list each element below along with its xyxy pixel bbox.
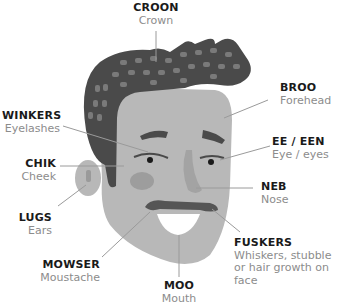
label-neb: NEB Nose xyxy=(261,181,288,206)
gloss-croon: Crown xyxy=(126,15,186,28)
gloss-mowser: Moustache xyxy=(20,272,100,285)
term-croon: CROON xyxy=(126,2,186,15)
face-shape xyxy=(100,88,232,264)
ear-inner xyxy=(86,170,91,182)
label-broo: BROO Forehead xyxy=(280,82,331,107)
label-fuskers: FUSKERS Whiskers, stubble or hair growth… xyxy=(234,237,342,288)
gloss-moo: Mouth xyxy=(154,293,204,306)
label-moo: MOO Mouth xyxy=(154,280,204,305)
label-croon: CROON Crown xyxy=(126,2,186,27)
right-eye xyxy=(208,159,214,165)
gloss-fuskers: Whiskers, stubble or hair growth on face xyxy=(234,250,342,288)
label-ee-een: EE / EEN Eye / eyes xyxy=(272,136,329,161)
term-fuskers: FUSKERS xyxy=(234,237,342,250)
term-broo: BROO xyxy=(280,82,331,95)
gloss-chik: Cheek xyxy=(2,171,56,184)
label-lugs: LUGS Ears xyxy=(2,212,52,237)
gloss-lugs: Ears xyxy=(2,225,52,238)
term-winkers: WINKERS xyxy=(2,110,60,123)
term-moo: MOO xyxy=(154,280,204,293)
term-chik: CHIK xyxy=(2,158,56,171)
term-neb: NEB xyxy=(261,181,288,194)
gloss-ee-een: Eye / eyes xyxy=(272,149,329,162)
cheek-blush xyxy=(130,172,154,190)
label-winkers: WINKERS Eyelashes xyxy=(2,110,60,135)
gloss-winkers: Eyelashes xyxy=(2,123,60,136)
term-lugs: LUGS xyxy=(2,212,52,225)
term-ee-een: EE / EEN xyxy=(272,136,329,149)
label-chik: CHIK Cheek xyxy=(2,158,56,183)
term-mowser: MOWSER xyxy=(20,259,100,272)
gloss-neb: Nose xyxy=(261,194,288,207)
left-eye xyxy=(147,157,153,163)
label-mowser: MOWSER Moustache xyxy=(20,259,100,284)
gloss-broo: Forehead xyxy=(280,95,331,108)
